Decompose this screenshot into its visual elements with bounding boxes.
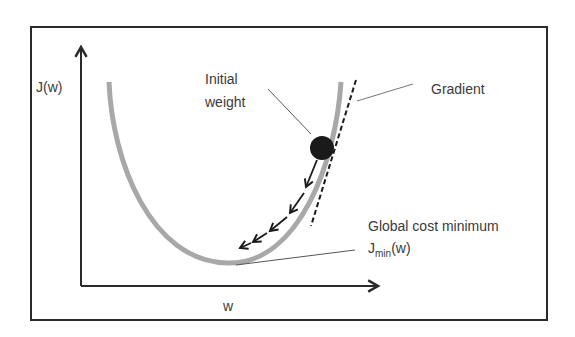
step-arrow-icon xyxy=(270,217,287,231)
jmin-arg: (w) xyxy=(391,240,410,256)
initial-weight-leader xyxy=(268,89,311,134)
y-axis-label: J(w) xyxy=(36,79,62,95)
jmin-j: J xyxy=(368,240,375,256)
diagram-canvas xyxy=(0,0,575,337)
step-arrow-icon xyxy=(306,160,317,187)
jmin-label: Jmin(w) xyxy=(368,240,411,258)
step-arrow-icon xyxy=(253,233,267,242)
gradient-leader xyxy=(357,84,413,101)
gradient-descent-diagram: J(w) w Initial weight Gradient Global co… xyxy=(0,0,575,337)
initial-weight-label-line1: Initial xyxy=(205,71,238,87)
x-axis-label: w xyxy=(223,298,233,314)
descent-step-arrows xyxy=(240,160,317,248)
step-arrow-icon xyxy=(240,243,251,248)
global-min-label: Global cost minimum xyxy=(368,218,499,234)
step-arrow-icon xyxy=(290,193,304,213)
gradient-label: Gradient xyxy=(431,81,485,97)
initial-weight-ball xyxy=(310,136,334,160)
outer-frame xyxy=(31,27,547,320)
jmin-subscript: min xyxy=(375,248,391,259)
initial-weight-label-line2: weight xyxy=(205,94,245,110)
